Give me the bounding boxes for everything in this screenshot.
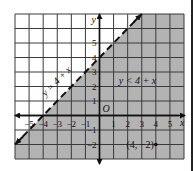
x-tick-label: 4 xyxy=(154,119,159,129)
points: (4, −2) xyxy=(127,139,158,151)
test-point xyxy=(154,143,158,147)
x-tick-label: −3 xyxy=(52,119,62,129)
x-tick-label: −2 xyxy=(67,119,77,129)
x-axis-label: x xyxy=(179,117,185,128)
y-tick-label: −1 xyxy=(87,125,97,135)
y-tick-label: −2 xyxy=(87,140,97,150)
y-axis-label: y xyxy=(91,14,97,25)
x-tick-label: 2 xyxy=(125,119,130,129)
y-tick-label: 2 xyxy=(92,82,97,92)
test-point-label: (4, −2) xyxy=(127,139,154,151)
y-tick-label: 1 xyxy=(92,96,97,106)
inequality-graph: x y O −5−4−3−2−11234554321−1−2 y = 4 + x… xyxy=(0,0,193,171)
origin-label: O xyxy=(103,103,110,114)
x-tick-label: 5 xyxy=(168,119,173,129)
inequality-label: y < 4 + x xyxy=(118,75,157,86)
y-tick-label: 5 xyxy=(92,38,97,48)
y-tick-label: 3 xyxy=(92,67,97,77)
x-tick-label: 3 xyxy=(140,119,145,129)
page-border xyxy=(191,0,193,171)
x-tick-label: 1 xyxy=(111,119,116,129)
